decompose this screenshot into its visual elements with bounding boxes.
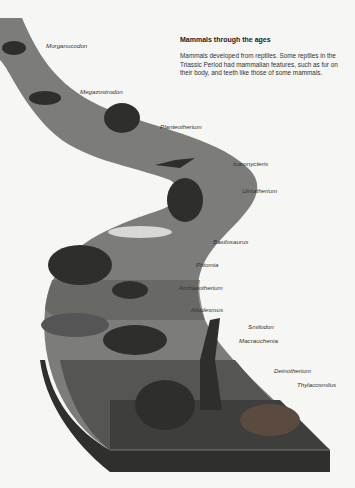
mammal-timeline-diagram: Mammals through the ages Mammals develop… [0, 0, 355, 488]
label-basilosaurus: Basilosaurus [213, 238, 248, 245]
label-uintatherium: Uintatherium [242, 187, 277, 194]
label-phiomia: Phiomia [196, 261, 218, 268]
label-thylacosmilus: Thylacosmilus [297, 381, 336, 388]
label-macrauchenia: Macrauchenia [239, 337, 278, 344]
label-smilodon: Smilodon [248, 323, 274, 330]
label-deinotherium: Deinotherium [274, 367, 311, 374]
label-morganucodon: Morganucodon [46, 42, 87, 49]
label-archaeotherium: Archaeotherium [179, 284, 223, 291]
intro-text: Mammals developed from reptiles. Some re… [180, 52, 340, 78]
page-title: Mammals through the ages [180, 36, 271, 43]
label-megazostrodon: Megazostrodon [80, 88, 123, 95]
label-icaronycteris: Icaronycteris [233, 160, 268, 167]
label-planteotherium: Planteotherium [160, 123, 202, 130]
label-allodesmus: Allodesmus [191, 306, 223, 313]
